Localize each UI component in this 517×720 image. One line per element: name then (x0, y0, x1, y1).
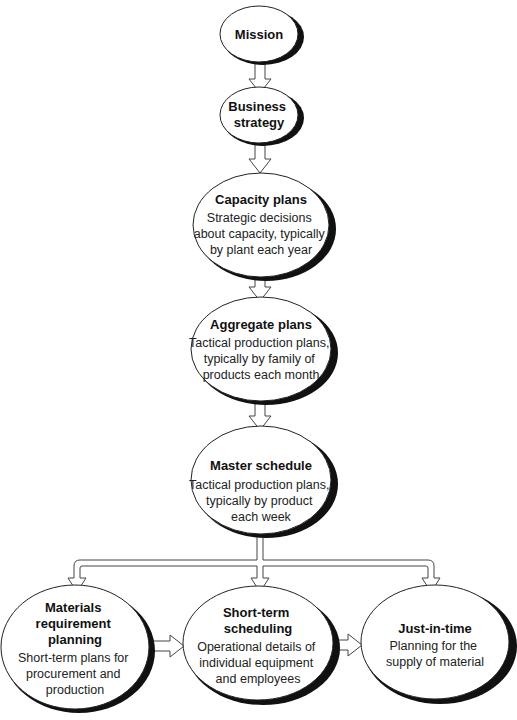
flowchart-canvas: Mission Business strategy Capacity plans… (0, 0, 517, 720)
business-strategy-title-line-2: strategy (234, 115, 285, 130)
aggregate-plans-title: Aggregate plans (210, 317, 312, 332)
node-short-term-scheduling: Short-term scheduling Operational detail… (183, 586, 340, 705)
node-just-in-time: Just-in-time Planning for the supply of … (361, 585, 517, 704)
master-schedule-desc-1: Tactical production plans, (189, 478, 329, 492)
mission-title: Mission (235, 27, 283, 42)
master-schedule-title: Master schedule (210, 458, 312, 473)
capacity-plans-title: Capacity plans (215, 192, 307, 207)
svg-text:Master schedule: Master schedule (210, 458, 312, 473)
arrow-mrp-to-short-term (150, 635, 184, 657)
svg-text:Mission: Mission (235, 27, 283, 42)
svg-text:Tactical production plans,: Tactical production plans, typically by … (189, 336, 333, 382)
just-in-time-title: Just-in-time (398, 621, 472, 636)
mrp-desc-1: Short-term plans for (18, 651, 128, 665)
svg-text:Aggregate plans: Aggregate plans (210, 317, 312, 332)
capacity-plans-desc-1: Strategic decisions (207, 211, 312, 225)
svg-text:Strategic decisions abou: Strategic decisions about capacity, typi… (194, 211, 329, 257)
business-strategy-title-line-1: Business (228, 99, 286, 114)
master-schedule-desc-2: typically by product (206, 494, 313, 508)
node-business-strategy: Business strategy (220, 87, 304, 146)
mrp-title-3: planning (48, 632, 102, 647)
node-master-schedule: Master schedule Tactical production plan… (189, 426, 338, 538)
aggregate-plans-desc-2: typically by family of (204, 352, 316, 366)
short-term-desc-2: individual equipment (199, 656, 313, 670)
node-mrp: Materials requirement planning Short-ter… (1, 585, 155, 713)
short-term-desc-1: Operational details of (197, 640, 316, 654)
capacity-plans-desc-2: about capacity, typically (194, 227, 326, 241)
svg-text:Capacity plans: Capacity plans (215, 192, 307, 207)
aggregate-plans-desc-1: Tactical production plans, (189, 336, 329, 350)
branch-connector (68, 532, 440, 592)
capacity-plans-desc-3: by plant each year (210, 243, 312, 257)
mrp-title-1: Materials (45, 600, 101, 615)
svg-text:Business strategy: Business strategy (228, 99, 289, 130)
just-in-time-desc-1: Planning for the (389, 639, 477, 653)
node-capacity-plans: Capacity plans Strategic decisions about… (193, 173, 336, 281)
short-term-desc-3: and employees (216, 672, 301, 686)
just-in-time-desc-2: supply of material (386, 655, 484, 669)
node-aggregate-plans: Aggregate plans Tactical production plan… (189, 297, 338, 405)
mrp-title-2: requirement (36, 616, 112, 631)
mrp-desc-3: production (46, 683, 104, 697)
node-mission: Mission (220, 6, 304, 65)
svg-text:Just-in-time: Just-in-time (398, 621, 472, 636)
arrow-business-strategy-to-capacity (249, 142, 271, 173)
short-term-title-1: Short-term (223, 605, 289, 620)
master-schedule-desc-3: each week (231, 510, 292, 524)
aggregate-plans-desc-3: products each month (203, 368, 320, 382)
short-term-title-2: scheduling (224, 621, 293, 636)
svg-text:Short-term scheduling: Short-term scheduling (223, 605, 293, 636)
mrp-desc-2: procurement and (26, 667, 121, 681)
